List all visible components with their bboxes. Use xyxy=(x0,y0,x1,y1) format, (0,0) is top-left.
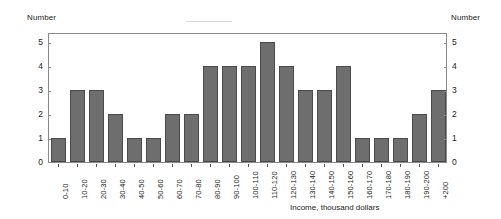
x-tick-mark xyxy=(77,164,78,167)
bar-series xyxy=(49,34,446,162)
y-tick-label-right: 3 xyxy=(452,86,464,95)
y-tick-label-left: 5 xyxy=(31,38,43,47)
y-tick-mark-right xyxy=(444,139,447,140)
bar xyxy=(222,66,238,162)
x-tick-mark xyxy=(153,164,154,167)
bar xyxy=(203,66,219,162)
y-tick-mark-right xyxy=(444,43,447,44)
x-tick-mark xyxy=(115,164,116,167)
x-tick-label: 10-20 xyxy=(80,179,89,199)
y-tick-mark-left xyxy=(48,91,51,92)
x-tick-mark xyxy=(191,164,192,167)
y-tick-label-right: 4 xyxy=(452,62,464,71)
scan-artifact xyxy=(186,21,232,22)
y-axis-title-left: Number xyxy=(27,13,56,22)
bar xyxy=(184,114,200,162)
plot-area xyxy=(48,33,447,163)
bar xyxy=(51,138,67,162)
bar xyxy=(317,90,333,162)
x-tick-label: 60-70 xyxy=(175,179,184,199)
y-tick-mark-right xyxy=(444,67,447,68)
x-tick-mark xyxy=(248,164,249,167)
bar xyxy=(374,138,390,162)
y-tick-mark-left xyxy=(48,139,51,140)
y-tick-label-right: 2 xyxy=(452,110,464,119)
bar xyxy=(127,138,143,162)
x-tick-label: 70-80 xyxy=(194,179,203,199)
y-tick-label-right: 1 xyxy=(452,134,464,143)
x-tick-label: 150-160 xyxy=(346,171,355,199)
y-tick-mark-left xyxy=(48,115,51,116)
bar xyxy=(336,66,352,162)
x-tick-label: 120-130 xyxy=(289,171,298,199)
y-tick-label-left: 0 xyxy=(31,158,43,167)
y-tick-label-right: 0 xyxy=(452,158,464,167)
x-tick-label: 50-60 xyxy=(156,179,165,199)
bar xyxy=(165,114,181,162)
x-tick-mark xyxy=(267,164,268,167)
x-tick-mark xyxy=(305,164,306,167)
bar xyxy=(146,138,162,162)
bar xyxy=(108,114,124,162)
y-tick-mark-right xyxy=(444,115,447,116)
x-tick-mark xyxy=(210,164,211,167)
y-tick-label-right: 5 xyxy=(452,38,464,47)
y-tick-label-left: 3 xyxy=(31,86,43,95)
x-tick-mark xyxy=(286,164,287,167)
x-tick-label: 130-140 xyxy=(308,171,317,199)
x-tick-mark xyxy=(362,164,363,167)
x-tick-label: 170-180 xyxy=(384,171,393,199)
y-tick-label-left: 4 xyxy=(31,62,43,71)
bar xyxy=(355,138,371,162)
x-tick-label: 0-10 xyxy=(61,184,70,199)
y-tick-label-left: 1 xyxy=(31,134,43,143)
x-tick-mark xyxy=(381,164,382,167)
y-tick-label-left: 2 xyxy=(31,110,43,119)
x-tick-label: +200 xyxy=(441,182,450,199)
bar xyxy=(279,66,295,162)
chart-screenshot: Number Number 012345 012345 0-1010-2020-… xyxy=(0,0,501,219)
bar xyxy=(412,114,428,162)
y-tick-mark-left xyxy=(48,67,51,68)
x-tick-label: 160-170 xyxy=(365,171,374,199)
x-tick-mark xyxy=(343,164,344,167)
x-tick-label: 140-150 xyxy=(327,171,336,199)
bar xyxy=(241,66,257,162)
x-tick-label: 180-190 xyxy=(403,171,412,199)
x-tick-label: 90-100 xyxy=(232,175,241,199)
x-tick-mark xyxy=(58,164,59,167)
y-tick-mark-left xyxy=(48,43,51,44)
x-tick-label: 30-40 xyxy=(118,179,127,199)
x-tick-mark xyxy=(96,164,97,167)
x-tick-mark xyxy=(134,164,135,167)
x-axis-title: Income, thousand dollars xyxy=(290,203,379,212)
y-axis-title-right: Number xyxy=(451,13,480,22)
bar xyxy=(298,90,314,162)
bar xyxy=(393,138,409,162)
x-tick-mark xyxy=(229,164,230,167)
x-tick-label: 110-120 xyxy=(270,171,279,199)
x-tick-label: 80-90 xyxy=(213,179,222,199)
y-tick-mark-right xyxy=(444,91,447,92)
bar xyxy=(89,90,105,162)
bar xyxy=(431,90,447,162)
x-tick-mark xyxy=(419,164,420,167)
x-tick-label: 40-50 xyxy=(137,179,146,199)
x-tick-mark xyxy=(324,164,325,167)
bar xyxy=(260,42,276,162)
x-tick-label: 190-200 xyxy=(422,171,431,199)
bar xyxy=(70,90,86,162)
x-tick-mark xyxy=(172,164,173,167)
x-tick-label: 100-110 xyxy=(251,171,260,199)
x-tick-mark xyxy=(438,164,439,167)
x-tick-mark xyxy=(400,164,401,167)
x-tick-label: 20-30 xyxy=(99,179,108,199)
